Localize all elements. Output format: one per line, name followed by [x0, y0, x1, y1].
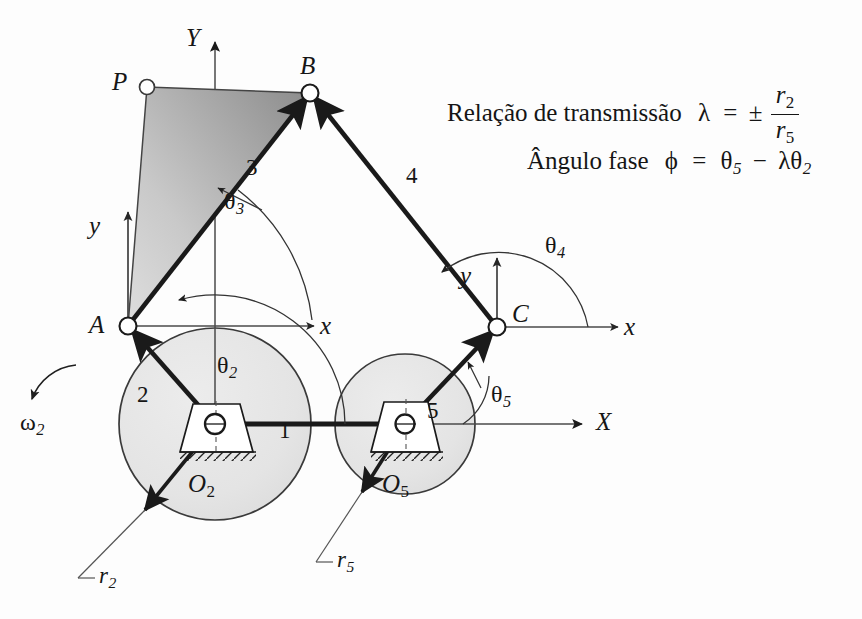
joint-p	[140, 80, 155, 95]
point-label-b: B	[300, 52, 315, 80]
link-label-2: 2	[137, 382, 149, 408]
local-y-axis-label-a: y	[89, 212, 100, 240]
plus-minus-sign: ±	[749, 99, 763, 126]
theta-4-symbol: θ	[545, 232, 557, 258]
transmission-ratio-formula: Relação de transmissão λ = ± r2 r5	[447, 82, 801, 149]
omega-2-arrow	[32, 365, 76, 399]
theta-5-sub: 5	[503, 392, 512, 411]
local-x-axis-label-c: x	[624, 313, 635, 341]
phase-angle-text: Ângulo fase	[527, 147, 649, 174]
phi-symbol: ϕ	[665, 147, 678, 174]
r5-symbol: r	[337, 547, 346, 572]
theta-2-sub: 2	[229, 363, 238, 382]
local-x-axis-label-a: x	[320, 312, 331, 340]
local-y-axis-label-c: y	[460, 262, 471, 290]
phase-theta2: θ	[790, 147, 802, 174]
origin-label-o2-sub: 2	[206, 482, 215, 501]
link-label-5: 5	[427, 398, 439, 424]
origin-label-o5: O5	[382, 470, 409, 502]
angle-label-theta-3: θ3	[224, 188, 244, 219]
phase-minus-sign: −	[753, 147, 767, 174]
link-label-1: 1	[279, 418, 291, 444]
phase-theta2-sub: 2	[802, 159, 811, 178]
ratio-denominator-symbol: r	[776, 116, 786, 143]
transmission-ratio-text: Relação de transmissão	[447, 99, 682, 126]
origin-label-o5-letter: O	[382, 470, 400, 497]
lambda-symbol: λ	[698, 99, 710, 126]
diagram-canvas: Y X y x y x P A B C O2 O5 1 2 3 4 5 θ2 θ…	[0, 0, 862, 619]
phase-lambda: λ	[778, 147, 790, 174]
link-label-3: 3	[246, 155, 258, 181]
theta-5-symbol: θ	[491, 381, 503, 407]
ratio-denominator-sub: 5	[785, 128, 794, 147]
theta-3-symbol: θ	[224, 188, 236, 214]
phase-theta5-sub: 5	[733, 159, 742, 178]
point-label-p: P	[112, 68, 127, 96]
ratio-numerator-symbol: r	[776, 81, 786, 108]
radius-label-r5: r5	[337, 547, 354, 576]
ratio-numerator-sub: 2	[785, 93, 794, 112]
theta-2-symbol: θ	[217, 352, 229, 378]
global-x-axis-label: X	[596, 408, 611, 436]
theta-3-sub: 3	[236, 199, 245, 218]
joint-c	[489, 319, 506, 336]
r2-sub: 2	[108, 574, 116, 591]
theta-4-sub: 4	[557, 243, 566, 262]
origin-label-o2: O2	[188, 470, 215, 502]
origin-label-o5-sub: 5	[400, 482, 409, 501]
global-y-axis-label: Y	[186, 24, 200, 52]
ratio-equals-sign: =	[723, 99, 737, 126]
ratio-fraction: r2 r5	[771, 81, 800, 148]
angle-label-theta-2: θ2	[217, 352, 237, 383]
joint-a	[120, 318, 137, 335]
link-label-4: 4	[406, 163, 418, 189]
angle-label-theta-4: θ4	[545, 232, 565, 263]
phase-equals-sign: =	[692, 147, 706, 174]
angle-label-theta-5: θ5	[491, 381, 511, 412]
radius-label-r2: r2	[99, 563, 116, 592]
omega-2-label: ω2	[20, 409, 44, 440]
joint-b	[302, 85, 319, 102]
ratio-numerator: r2	[771, 81, 800, 115]
r5-sub: 5	[346, 558, 354, 575]
ratio-denominator: r5	[771, 115, 800, 148]
phase-angle-formula: Ângulo fase ϕ = θ5 − λθ2	[527, 147, 811, 179]
phase-theta5: θ	[721, 147, 733, 174]
point-label-a: A	[89, 311, 104, 339]
omega-2-symbol: ω	[20, 409, 36, 435]
omega-2-sub: 2	[36, 420, 45, 439]
origin-label-o2-letter: O	[188, 470, 206, 497]
point-label-c: C	[512, 300, 529, 328]
r2-symbol: r	[99, 563, 108, 588]
